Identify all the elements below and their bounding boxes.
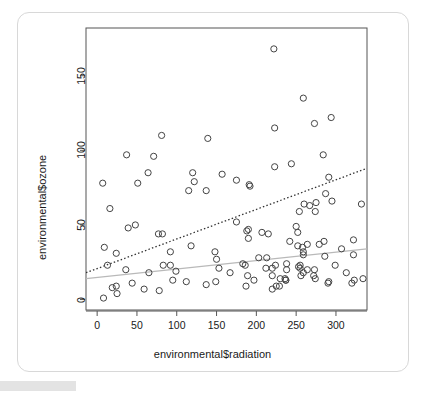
data-point: [203, 188, 209, 194]
data-point: [123, 267, 129, 273]
data-point: [329, 198, 335, 204]
data-point: [269, 273, 275, 279]
data-point: [295, 264, 301, 270]
data-point: [296, 208, 302, 214]
data-point: [245, 235, 251, 241]
x-tick-label: 250: [276, 319, 316, 331]
x-tick-label: 50: [117, 319, 157, 331]
data-point: [326, 174, 332, 180]
data-point: [233, 177, 239, 183]
data-point: [113, 250, 119, 256]
data-point: [301, 201, 307, 207]
data-point: [167, 249, 173, 255]
data-point: [311, 267, 317, 273]
data-point: [107, 205, 113, 211]
data-point: [288, 161, 294, 167]
scatter-plot: [0, 0, 425, 394]
y-tick-label: 50: [75, 205, 87, 245]
data-point: [190, 170, 196, 176]
data-point: [323, 191, 329, 197]
data-point: [205, 135, 211, 141]
data-point: [284, 267, 290, 273]
fit-lines: [86, 168, 367, 278]
data-point: [219, 171, 225, 177]
data-point: [167, 262, 173, 268]
data-point: [245, 226, 251, 232]
x-tick-label: 100: [157, 319, 197, 331]
data-point: [141, 286, 147, 292]
data-point: [114, 290, 120, 296]
data-point: [350, 237, 356, 243]
data-point: [155, 231, 161, 237]
y-axis-title: environmental$ozone: [36, 155, 48, 260]
data-point: [287, 238, 293, 244]
data-point: [265, 231, 271, 237]
least-squares-fit-dotted: [86, 168, 367, 272]
data-point: [135, 180, 141, 186]
data-point: [244, 273, 250, 279]
y-tick-label: 0: [75, 280, 87, 320]
data-point: [160, 262, 166, 268]
data-point: [322, 253, 328, 259]
data-point: [358, 201, 364, 207]
data-point: [203, 282, 209, 288]
y-tick-label: 100: [75, 130, 87, 170]
data-point: [125, 225, 131, 231]
data-point: [188, 243, 194, 249]
data-point: [170, 277, 176, 283]
data-point: [320, 152, 326, 158]
data-point: [343, 270, 349, 276]
data-point: [244, 228, 250, 234]
data-point: [251, 277, 257, 283]
x-tick-label: 200: [236, 319, 276, 331]
data-point: [191, 179, 197, 185]
taskbar-stub: [0, 381, 76, 391]
data-point: [272, 164, 278, 170]
x-tick-label: 150: [197, 319, 237, 331]
data-point: [132, 222, 138, 228]
data-point: [360, 276, 366, 282]
data-point: [109, 285, 115, 291]
data-point: [312, 208, 318, 214]
data-point: [151, 153, 157, 159]
data-point: [311, 120, 317, 126]
data-point: [113, 283, 119, 289]
data-point: [313, 199, 319, 205]
data-point: [159, 132, 165, 138]
data-point: [272, 125, 278, 131]
x-axis-title: environmental$radiation: [0, 348, 425, 360]
data-point: [350, 252, 356, 258]
data-point: [101, 244, 107, 250]
data-point: [100, 180, 106, 186]
data-point: [332, 262, 338, 268]
screenshot-canvas: environmental$radiation environmental$oz…: [0, 0, 425, 394]
x-tick-label: 300: [316, 319, 356, 331]
data-point: [216, 265, 222, 271]
data-point: [263, 265, 269, 271]
data-point: [271, 46, 277, 52]
data-point: [212, 249, 218, 255]
data-point: [321, 238, 327, 244]
x-tick-label: 0: [77, 319, 117, 331]
data-point: [233, 219, 239, 225]
data-point: [129, 280, 135, 286]
data-point: [227, 270, 233, 276]
data-point: [213, 279, 219, 285]
data-point: [145, 170, 151, 176]
data-point: [183, 279, 189, 285]
data-point: [243, 283, 249, 289]
data-point: [328, 114, 334, 120]
data-point: [213, 256, 219, 262]
data-point: [100, 295, 106, 301]
data-point: [284, 261, 290, 267]
data-point: [259, 229, 265, 235]
data-point: [293, 223, 299, 229]
data-point: [124, 152, 130, 158]
data-point: [186, 188, 192, 194]
data-point: [295, 229, 301, 235]
data-point: [156, 288, 162, 294]
y-tick-label: 150: [75, 56, 87, 96]
data-point: [300, 95, 306, 101]
